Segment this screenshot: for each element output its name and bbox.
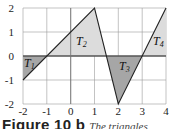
x-tick-labels: -2 -1 0 1 2 3 4 xyxy=(18,105,169,115)
y-tick-labels: 2 1 0 -1 -2 xyxy=(5,2,15,110)
chart: 2 1 0 -1 -2 -2 -1 0 1 2 3 4 T1 T2 T3 T4 xyxy=(0,0,169,115)
y-tick: -1 xyxy=(5,74,14,86)
figure-number: Figure 10 b xyxy=(2,116,85,129)
x-tick: 4 xyxy=(163,105,169,115)
caption-text: The triangles xyxy=(89,120,147,129)
y-tick: 0 xyxy=(9,50,15,62)
figure-caption: Figure 10 bThe triangles xyxy=(2,116,148,129)
x-tick: 0 xyxy=(68,105,74,115)
y-tick: 2 xyxy=(9,2,15,14)
x-tick: 1 xyxy=(92,105,98,115)
x-tick: 3 xyxy=(139,105,145,115)
y-tick: 1 xyxy=(9,26,15,38)
y-tick: -2 xyxy=(5,98,14,110)
x-tick: 2 xyxy=(116,105,122,115)
x-tick: -1 xyxy=(42,105,51,115)
x-tick: -2 xyxy=(18,105,27,115)
